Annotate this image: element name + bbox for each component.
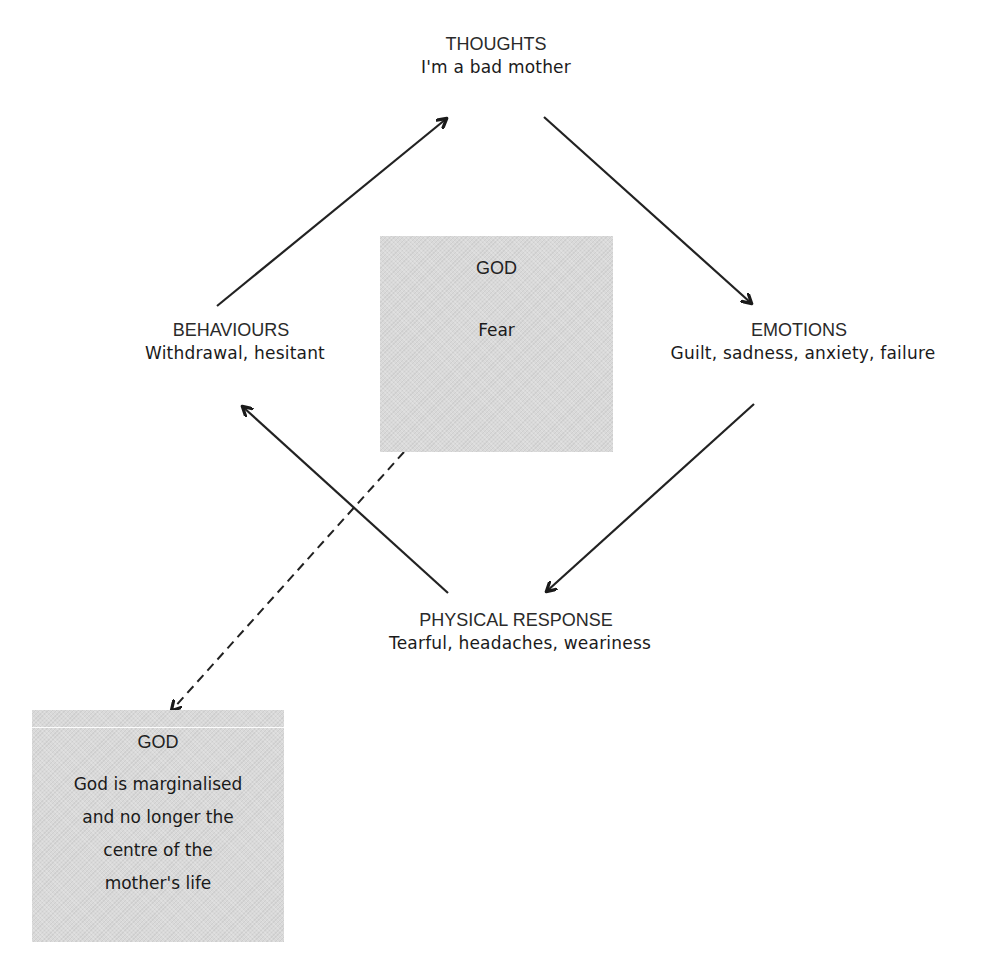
center-god-body: Fear xyxy=(380,314,613,347)
node-behaviours-title: BEHAVIOURS xyxy=(92,319,370,341)
node-physical-description: Tearful, headaches, weariness xyxy=(340,631,700,655)
node-physical-response: PHYSICAL RESPONSE Tearful, headaches, we… xyxy=(340,609,700,655)
outcome-box-divider xyxy=(32,727,284,728)
node-behaviours: BEHAVIOURS Withdrawal, hesitant xyxy=(100,319,370,365)
node-emotions: EMOTIONS Guilt, sadness, anxiety, failur… xyxy=(620,319,986,365)
outcome-line-1: God is marginalised xyxy=(32,768,284,801)
outcome-god-body: God is marginalised and no longer the ce… xyxy=(32,768,284,900)
node-physical-title: PHYSICAL RESPONSE xyxy=(332,609,700,631)
outcome-god-box: GOD God is marginalised and no longer th… xyxy=(32,710,284,942)
node-emotions-description: Guilt, sadness, anxiety, failure xyxy=(620,341,986,365)
node-thoughts-title: THOUGHTS xyxy=(346,33,646,55)
outcome-line-4: mother's life xyxy=(32,867,284,900)
node-emotions-title: EMOTIONS xyxy=(612,319,986,341)
outcome-line-2: and no longer the xyxy=(32,801,284,834)
node-behaviours-description: Withdrawal, hesitant xyxy=(100,341,370,365)
node-thoughts: THOUGHTS I'm a bad mother xyxy=(346,33,646,79)
center-god-box: GOD Fear xyxy=(380,236,613,452)
outcome-god-title: GOD xyxy=(32,731,284,753)
node-thoughts-description: I'm a bad mother xyxy=(346,55,646,79)
outcome-line-3: centre of the xyxy=(32,834,284,867)
arrow-god-to-outcome-dashed xyxy=(172,452,404,710)
center-god-title: GOD xyxy=(380,257,613,279)
